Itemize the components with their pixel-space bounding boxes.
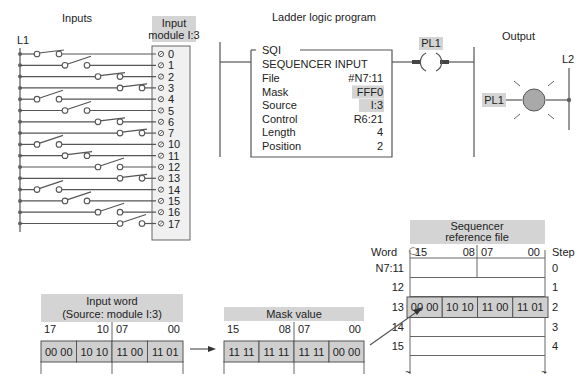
svg-text:15: 15 bbox=[227, 323, 239, 335]
svg-text:10: 10 bbox=[97, 323, 109, 335]
svg-text:11 00: 11 00 bbox=[482, 301, 509, 313]
seq-active-cell-3: 11 01 bbox=[513, 297, 548, 318]
svg-text:1: 1 bbox=[552, 281, 558, 293]
svg-text:13: 13 bbox=[392, 301, 404, 313]
switch-17-open[interactable] bbox=[117, 215, 146, 227]
input-word-title-line2: (Source: module I:3) bbox=[62, 308, 162, 320]
switch-5-open[interactable] bbox=[62, 102, 91, 114]
svg-text:00 00: 00 00 bbox=[333, 346, 361, 358]
seq-active-cell-2: 11 00 bbox=[478, 297, 513, 318]
sqi-row-mask: MaskFFF0 bbox=[262, 86, 384, 99]
svg-text:File: File bbox=[262, 72, 280, 84]
svg-text:07: 07 bbox=[298, 323, 310, 335]
seq-step-header: Step bbox=[552, 246, 575, 258]
svg-text:07: 07 bbox=[116, 323, 128, 335]
lamp-label: PL1 bbox=[484, 94, 504, 106]
seq-row-12: 121 bbox=[392, 281, 558, 297]
sqi-row-length: Length4 bbox=[262, 126, 383, 138]
seq-bit-00: 00 bbox=[528, 246, 540, 258]
svg-text:N7:11: N7:11 bbox=[375, 262, 404, 274]
seq-active-cell-1: 10 10 bbox=[442, 297, 477, 318]
switch-6-closed[interactable] bbox=[95, 118, 125, 125]
input-word-table: 1710070000 0010 1011 0011 01 bbox=[41, 322, 183, 374]
svg-text:10 10: 10 10 bbox=[80, 346, 108, 358]
svg-text:14: 14 bbox=[168, 184, 180, 196]
svg-text:~: ~ bbox=[405, 367, 411, 378]
svg-text:4: 4 bbox=[168, 93, 174, 105]
seq-row-N7:11: N7:110 bbox=[375, 262, 558, 278]
input-row-1: 1 bbox=[18, 56, 174, 71]
switch-13-closed[interactable] bbox=[117, 174, 147, 181]
coil-label: PL1 bbox=[421, 37, 441, 49]
svg-text:10: 10 bbox=[168, 138, 180, 150]
svg-text:12: 12 bbox=[392, 281, 404, 293]
sqi-row-control: ControlR6:21 bbox=[262, 113, 383, 125]
switch-1-open[interactable] bbox=[62, 56, 91, 68]
switch-7-closed[interactable] bbox=[117, 129, 147, 136]
switch-16-open[interactable] bbox=[95, 203, 124, 215]
switch-4-open[interactable] bbox=[34, 90, 63, 102]
switch-2-closed[interactable] bbox=[95, 73, 125, 80]
sqi-name: SEQUENCER INPUT bbox=[262, 58, 368, 70]
svg-text:#N7:11: #N7:11 bbox=[348, 72, 383, 84]
switch-3-closed[interactable] bbox=[117, 84, 147, 91]
svg-text:00: 00 bbox=[168, 323, 180, 335]
svg-text:2: 2 bbox=[552, 301, 558, 313]
svg-text:3: 3 bbox=[168, 82, 174, 94]
switch-15-open[interactable] bbox=[62, 192, 91, 204]
mask-title: Mask value bbox=[266, 308, 322, 320]
ladder-title: Ladder logic program bbox=[272, 11, 376, 23]
nibble-cell-1: 11 11 bbox=[259, 341, 294, 362]
sqi-row-position: Position2 bbox=[262, 140, 383, 152]
nibble-cell-2: 11 11 bbox=[294, 341, 329, 362]
seq-title-line2: reference file bbox=[445, 231, 509, 243]
svg-text:11 11: 11 11 bbox=[229, 346, 255, 358]
switch-14-open[interactable] bbox=[34, 181, 63, 193]
input-row-0: 0 bbox=[18, 48, 174, 60]
input-module-label-line2: module I:3 bbox=[148, 29, 199, 41]
svg-text:11 01: 11 01 bbox=[152, 346, 179, 358]
svg-text:~: ~ bbox=[541, 367, 547, 378]
switch-12-open[interactable] bbox=[95, 158, 124, 170]
nibble-cell-3: 11 01 bbox=[148, 341, 184, 362]
svg-text:2: 2 bbox=[377, 140, 383, 152]
sequencer-table: N7:11012113200 0010 1011 0011 01143154~~ bbox=[375, 245, 558, 378]
sqi-instruction-block[interactable]: SQI SEQUENCER INPUT File#N7:11MaskFFF0So… bbox=[251, 44, 392, 157]
svg-text:7: 7 bbox=[168, 127, 174, 139]
input-word-title-line1: Input word bbox=[86, 295, 137, 307]
svg-text:0: 0 bbox=[552, 262, 558, 274]
seq-row-15: 154 bbox=[392, 340, 558, 356]
svg-text:10 10: 10 10 bbox=[446, 301, 474, 313]
switch-11-closed[interactable] bbox=[62, 152, 92, 159]
switch-10-open[interactable] bbox=[34, 135, 63, 147]
input-row-3: 3 bbox=[18, 82, 174, 94]
output-coil[interactable] bbox=[420, 53, 441, 71]
seq-bit-07: 07 bbox=[481, 246, 493, 258]
svg-text:15: 15 bbox=[168, 195, 180, 207]
sqi-row-file: File#N7:11 bbox=[262, 72, 383, 84]
svg-text:6: 6 bbox=[168, 116, 174, 128]
svg-text:5: 5 bbox=[168, 105, 174, 117]
svg-text:13: 13 bbox=[168, 172, 180, 184]
input-row-6: 6 bbox=[18, 116, 174, 128]
svg-text:FFF0: FFF0 bbox=[357, 86, 383, 98]
svg-text:11 11: 11 11 bbox=[264, 346, 290, 358]
sqi-row-source: SourceI:3 bbox=[262, 99, 384, 112]
sqi-mnemonic: SQI bbox=[262, 44, 281, 56]
svg-text:1: 1 bbox=[168, 59, 174, 71]
svg-text:Position: Position bbox=[262, 140, 301, 152]
nibble-cell-0: 11 11 bbox=[224, 341, 259, 362]
svg-text:Mask: Mask bbox=[262, 86, 289, 98]
svg-text:11 01: 11 01 bbox=[517, 301, 544, 313]
svg-text:12: 12 bbox=[168, 161, 180, 173]
svg-text:Source: Source bbox=[262, 99, 297, 111]
svg-text:4: 4 bbox=[552, 340, 558, 352]
svg-text:Length: Length bbox=[262, 126, 296, 138]
nibble-cell-1: 10 10 bbox=[77, 341, 113, 362]
svg-text:16: 16 bbox=[168, 206, 180, 218]
nibble-cell-0: 00 00 bbox=[41, 341, 77, 362]
svg-text:17: 17 bbox=[44, 323, 56, 335]
svg-text:R6:21: R6:21 bbox=[354, 113, 383, 125]
seq-word-header: Word bbox=[371, 246, 397, 258]
switch-0-closed[interactable] bbox=[34, 50, 64, 57]
